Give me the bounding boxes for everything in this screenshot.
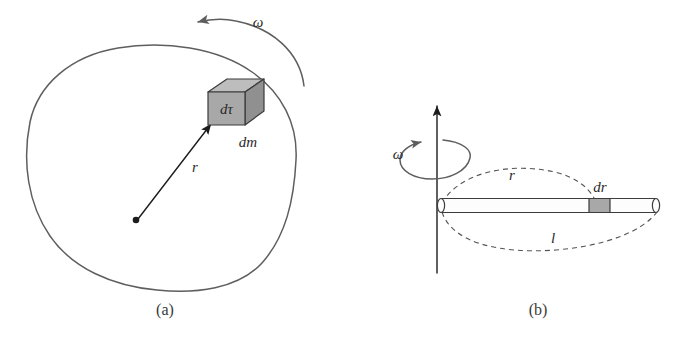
panel-a-caption: (a) [156,301,174,319]
panel-a-group: ω r dτ dm (a) [27,14,304,319]
figure-root: ω r dτ dm (a) [0,0,697,350]
rod-left-cap [437,199,444,213]
panel-b-length-label: l [551,230,555,246]
volume-element-cube: dτ [208,79,264,125]
rod-element-label: dr [593,179,607,195]
volume-element-label: dτ [220,101,234,117]
panel-b-length-arc [442,212,657,251]
panel-a-radius-arrow [133,124,211,223]
panel-a-omega-label: ω [253,14,264,30]
rod-element-dr [589,199,610,213]
panel-b-caption: (b) [529,301,548,319]
rod-body [437,199,659,213]
rod-barrel [441,199,656,213]
rotation-centre-dot [133,217,140,224]
panel-a-omega-arc [198,19,304,86]
panel-b-omega-arc [400,140,470,179]
physics-figure-canvas: ω r dτ dm (a) [0,0,697,350]
panel-b-group: ω r l dr (b) [393,106,660,319]
rod-right-cap [652,199,659,213]
panel-b-omega-label: ω [393,146,404,162]
panel-a-radius-label: r [192,159,198,175]
mass-element-label: dm [239,134,258,150]
panel-b-radius-label: r [509,167,515,183]
panel-b-radius-arc [442,168,594,203]
